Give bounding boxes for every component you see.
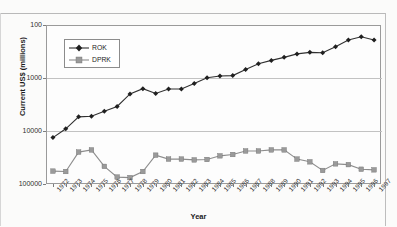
x-tick-mark-1974 xyxy=(79,184,80,187)
legend-label-rok: ROK xyxy=(92,44,107,51)
gridline-1000 xyxy=(47,131,382,132)
page-header-ghost-text xyxy=(128,1,278,8)
x-tick-mark-1995 xyxy=(348,184,349,187)
x-tick-mark-1972 xyxy=(53,184,54,187)
legend-swatch-dprk xyxy=(68,54,90,66)
x-tick-mark-1986 xyxy=(233,184,234,187)
x-tick-mark-1981 xyxy=(169,184,170,187)
x-tick-mark-1992 xyxy=(310,184,311,187)
y-tick-mark-100 xyxy=(43,184,46,185)
legend-swatch-rok xyxy=(68,42,90,54)
legend-item-rok: ROK xyxy=(65,42,121,54)
x-tick-mark-1979 xyxy=(143,184,144,187)
chart-legend: ROK DPRK xyxy=(64,39,120,68)
x-tick-mark-1983 xyxy=(194,184,195,187)
scanned-page: Current US$ (millions) Year ROK DPRK 100… xyxy=(0,0,397,227)
x-tick-mark-1997 xyxy=(374,184,375,187)
x-tick-mark-1987 xyxy=(246,184,247,187)
scan-border-top xyxy=(0,13,386,14)
x-tick-mark-1994 xyxy=(336,184,337,187)
y-tick-label-1000: 10000 xyxy=(0,127,42,134)
x-tick-mark-1984 xyxy=(207,184,208,187)
x-tick-mark-1978 xyxy=(130,184,131,187)
y-tick-label-100: 100000 xyxy=(0,180,42,187)
x-tick-mark-1975 xyxy=(91,184,92,187)
x-tick-mark-1993 xyxy=(323,184,324,187)
y-tick-label-100000: 100 xyxy=(0,21,42,28)
y-tick-mark-1000 xyxy=(43,131,46,132)
x-tick-mark-1991 xyxy=(297,184,298,187)
x-tick-mark-1990 xyxy=(284,184,285,187)
x-tick-mark-1996 xyxy=(361,184,362,187)
x-tick-mark-1980 xyxy=(156,184,157,187)
x-tick-mark-1976 xyxy=(104,184,105,187)
x-tick-mark-1988 xyxy=(258,184,259,187)
y-tick-mark-10000 xyxy=(43,78,46,79)
x-tick-mark-1973 xyxy=(66,184,67,187)
scan-border-left xyxy=(0,13,1,226)
x-tick-mark-1977 xyxy=(117,184,118,187)
x-tick-mark-1982 xyxy=(181,184,182,187)
scan-border-right xyxy=(385,13,386,226)
gridline-10000 xyxy=(47,78,382,79)
y-tick-label-10000: 1000 xyxy=(0,74,42,81)
y-tick-mark-100000 xyxy=(43,25,46,26)
x-tick-mark-1985 xyxy=(220,184,221,187)
legend-label-dprk: DPRK xyxy=(92,56,111,63)
x-tick-mark-1989 xyxy=(271,184,272,187)
x-axis-title: Year xyxy=(0,212,397,221)
legend-item-dprk: DPRK xyxy=(65,54,121,66)
